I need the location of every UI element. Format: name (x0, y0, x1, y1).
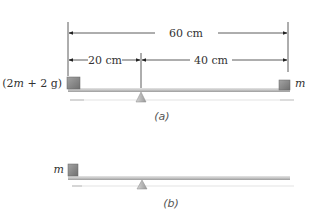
fulcrum-a (136, 92, 146, 102)
bar-shadow-left-b (72, 185, 82, 187)
bar-a (68, 88, 290, 92)
caption-a: (a) (154, 110, 169, 123)
block-right-a (279, 80, 290, 90)
bar-b (68, 176, 290, 180)
seesaw-a: (2m + 2 g) m (a) (2, 77, 305, 123)
dimension-right-label: 40 cm (194, 54, 229, 67)
dimension-right: 40 cm (142, 54, 287, 67)
mass-label-b: m (54, 163, 64, 176)
dimension-total: 60 cm (69, 27, 287, 40)
bar-shadow-right-a (280, 99, 294, 101)
dimension-left: 20 cm (69, 54, 140, 67)
seesaw-b: m (b) (54, 163, 294, 210)
seesaw-diagram: 60 cm 20 cm 40 cm (2m + 2 g) m (a) m (b) (0, 0, 321, 211)
left-mass-label-a: (2m + 2 g) (2, 77, 62, 90)
block-left-a (67, 77, 80, 89)
right-mass-label-a: m (295, 77, 305, 90)
block-b (68, 164, 78, 176)
bar-shadow-left-a (70, 99, 84, 101)
dimension-total-label: 60 cm (169, 27, 204, 40)
dimension-left-label: 20 cm (88, 54, 123, 67)
caption-b: (b) (163, 197, 179, 210)
fulcrum-b (137, 180, 147, 189)
